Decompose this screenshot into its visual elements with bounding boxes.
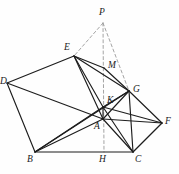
vertex-label-e: E [64, 43, 70, 53]
edge-CF [133, 123, 162, 152]
vertex-label-m: M [108, 61, 116, 71]
vertex-label-k: K [107, 96, 113, 106]
vertex-label-h: H [99, 155, 106, 165]
vertex-label-b: B [27, 155, 33, 165]
edge-DB [7, 83, 35, 152]
edge-DE [7, 56, 74, 83]
vertex-label-d: D [0, 77, 7, 87]
edge-AC [103, 119, 133, 152]
edge-PH [103, 23, 104, 152]
geometry-figure: PEMGDKAFBHC [0, 0, 179, 174]
vertex-label-f: F [165, 117, 171, 127]
solid-edge-group [7, 56, 162, 152]
vertex-label-c: C [135, 155, 141, 165]
edge-PG [103, 23, 129, 91]
geometry-canvas [0, 0, 179, 174]
edge-MG [104, 68, 129, 91]
vertex-label-p: P [99, 8, 105, 18]
edge-EK [74, 56, 103, 107]
edge-PE [74, 23, 103, 56]
edge-BA [35, 119, 103, 152]
vertex-label-a: A [94, 122, 100, 132]
vertex-label-g: G [133, 85, 140, 95]
